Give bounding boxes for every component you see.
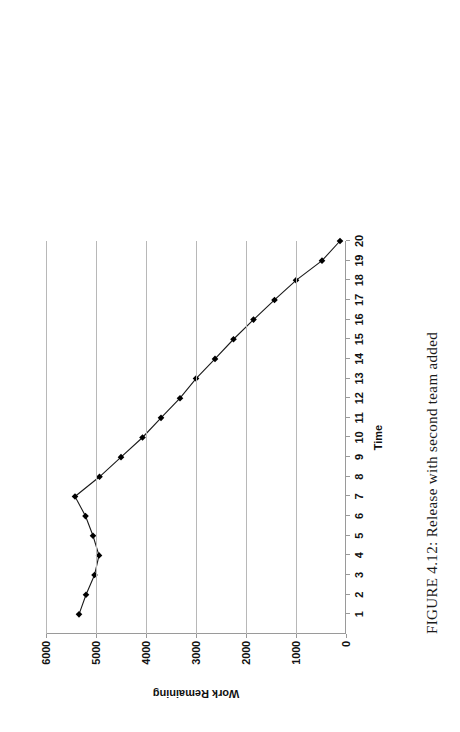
y-axis-tick [46, 634, 47, 638]
y-axis-title-label: Work Remaining [153, 688, 240, 700]
gridline-y [296, 241, 297, 634]
y-axis-tick-label: 1000 [290, 641, 302, 665]
gridline-y [96, 241, 97, 634]
x-axis-tick-label: 5 [353, 533, 365, 539]
x-axis-tick-label: 19 [353, 255, 365, 267]
y-axis-tick [146, 634, 147, 638]
x-axis-tick-label: 18 [353, 274, 365, 286]
x-axis-tick [346, 378, 350, 379]
x-axis-tick [346, 358, 350, 359]
y-axis-tick [96, 634, 97, 638]
figure: Work Remaining 0100020003000400050006000… [0, 0, 460, 732]
y-axis-tick [346, 634, 347, 638]
gridline-y [46, 241, 47, 634]
plot-area: 0100020003000400050006000123456789101112… [46, 241, 346, 634]
x-axis-tick-label: 3 [353, 572, 365, 578]
y-axis-tick-label: 6000 [40, 641, 52, 665]
x-axis-tick [346, 574, 350, 575]
x-axis-tick [346, 515, 350, 516]
x-axis-tick [346, 437, 350, 438]
gridline-y [196, 241, 197, 634]
x-axis-tick [346, 338, 350, 339]
x-axis-tick [346, 417, 350, 418]
y-axis-tick-label: 5000 [90, 641, 102, 665]
x-axis-tick-label: 16 [353, 314, 365, 326]
figure-page: Work Remaining 0100020003000400050006000… [0, 0, 460, 732]
x-axis-tick-label: 10 [353, 432, 365, 444]
x-axis-tick [346, 240, 350, 241]
x-axis-tick-label: 20 [353, 235, 365, 247]
x-axis-tick-label: 11 [353, 412, 365, 423]
figure-caption: FIGURE 4.12: Release with second team ad… [424, 34, 441, 634]
data-point-marker [83, 591, 90, 598]
x-axis-tick [346, 554, 350, 555]
data-point-marker [82, 513, 89, 520]
x-axis-tick-label: 7 [353, 493, 365, 499]
y-axis-title: Work Remaining [46, 686, 346, 702]
x-axis-tick [346, 279, 350, 280]
x-axis-tick-label: 9 [353, 454, 365, 460]
x-axis-tick [346, 456, 350, 457]
x-axis-tick [346, 260, 350, 261]
rotated-figure-container: Work Remaining 0100020003000400050006000… [0, 0, 460, 732]
x-axis-tick [346, 319, 350, 320]
x-axis-tick [346, 495, 350, 496]
x-axis-tick-label: 4 [353, 552, 365, 558]
x-axis-tick-label: 2 [353, 592, 365, 598]
x-axis-tick [346, 299, 350, 300]
y-axis-tick-label: 3000 [190, 641, 202, 665]
x-axis-tick-label: 6 [353, 513, 365, 519]
y-axis-tick-label: 0 [340, 641, 352, 647]
data-point-marker [76, 611, 83, 618]
y-axis-tick [246, 634, 247, 638]
x-axis-tick-label: 12 [353, 392, 365, 404]
x-axis-tick-label: 13 [353, 373, 365, 385]
x-axis-tick-label: 14 [353, 353, 365, 365]
series-line [75, 241, 340, 614]
x-axis-tick-label: 1 [353, 611, 365, 617]
gridline-y [146, 241, 147, 634]
x-axis-tick [346, 613, 350, 614]
x-axis-tick-label: 17 [353, 294, 365, 306]
y-axis-tick [296, 634, 297, 638]
x-axis-tick-label: 8 [353, 474, 365, 480]
x-axis-tick-label: 15 [353, 333, 365, 345]
x-axis-tick [346, 535, 350, 536]
x-axis-tick [346, 476, 350, 477]
y-axis-tick-label: 2000 [240, 641, 252, 665]
y-axis-tick-label: 4000 [140, 641, 152, 665]
y-axis-tick [196, 634, 197, 638]
gridline-y [246, 241, 247, 634]
x-axis-title: Time [372, 241, 384, 634]
x-axis-tick [346, 594, 350, 595]
x-axis-tick [346, 397, 350, 398]
